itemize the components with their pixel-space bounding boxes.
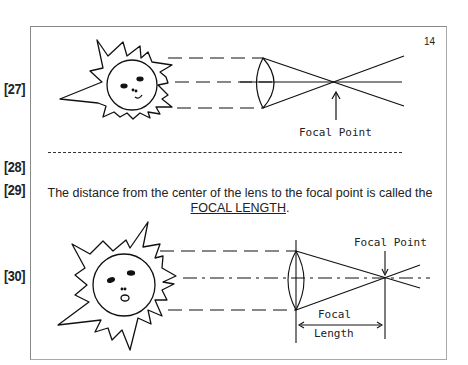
focal-length-label-line1: Focal bbox=[318, 308, 351, 321]
focal-length-label-line2: Length bbox=[314, 327, 354, 340]
period: . bbox=[286, 201, 289, 215]
definition-text: The distance from the center of the lens… bbox=[48, 186, 433, 200]
diagrams bbox=[0, 0, 468, 365]
sun-icon-top bbox=[60, 40, 172, 119]
focal-point-label-top: Focal Point bbox=[299, 126, 372, 139]
sun-icon-bottom bbox=[58, 222, 176, 350]
light-rays-bottom bbox=[160, 240, 430, 343]
light-rays-top bbox=[168, 56, 404, 120]
focal-length-term: FOCAL LENGTH bbox=[191, 201, 286, 215]
focal-point-label-bottom: Focal Point bbox=[354, 236, 427, 249]
definition-paragraph: The distance from the center of the lens… bbox=[40, 186, 440, 216]
section-divider bbox=[48, 152, 402, 153]
